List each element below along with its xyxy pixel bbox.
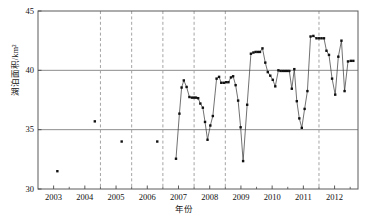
data-point-marker xyxy=(323,37,325,39)
data-point-marker xyxy=(312,35,314,37)
data-point-marker xyxy=(306,90,308,92)
x-tick-label: 2009 xyxy=(225,193,257,202)
data-point-marker xyxy=(197,97,199,99)
data-point-marker xyxy=(218,76,220,78)
data-point-marker xyxy=(288,70,290,72)
data-point-marker xyxy=(237,99,239,101)
x-axis-title: 年份 xyxy=(0,205,368,214)
data-point-marker xyxy=(272,79,274,81)
x-tick-label: 2010 xyxy=(256,193,288,202)
data-point-marker xyxy=(320,37,322,39)
x-tick-label: 2008 xyxy=(194,193,226,202)
data-point-marker xyxy=(225,81,227,83)
data-point-marker xyxy=(284,70,286,72)
data-point-marker xyxy=(185,86,187,88)
y-tick-label: 45 xyxy=(5,7,34,16)
data-point-marker xyxy=(204,121,206,123)
data-point-marker xyxy=(352,60,354,62)
data-point-marker xyxy=(178,112,180,114)
x-tick-label: 2004 xyxy=(69,193,101,202)
data-point-marker xyxy=(175,158,177,160)
data-point-marker xyxy=(246,104,248,106)
data-point-marker xyxy=(282,70,284,72)
series-line xyxy=(176,36,353,161)
data-point-marker xyxy=(331,77,333,79)
data-point-marker xyxy=(220,82,222,84)
data-point-marker xyxy=(199,102,201,104)
data-point-marker xyxy=(325,50,327,52)
data-point-marker xyxy=(212,115,214,117)
data-point-marker xyxy=(286,70,288,72)
data-point-marker xyxy=(315,37,317,39)
y-tick-label: 30 xyxy=(5,185,34,194)
data-point-marker xyxy=(191,96,193,98)
data-point-marker xyxy=(277,69,279,71)
data-point-marker xyxy=(298,117,300,119)
data-point-marker xyxy=(259,51,261,53)
chart-plot-area xyxy=(0,0,368,224)
data-point-marker xyxy=(202,107,204,109)
x-tick-label: 2011 xyxy=(287,193,319,202)
y-axis-title: 湖泊面积/km² xyxy=(11,20,20,120)
data-point-marker xyxy=(56,170,58,172)
data-point-marker xyxy=(257,51,259,53)
data-point-marker xyxy=(296,100,298,102)
data-point-marker xyxy=(223,82,225,84)
data-point-marker xyxy=(264,61,266,63)
data-point-marker xyxy=(301,127,303,129)
data-point-marker xyxy=(291,88,293,90)
data-point-marker xyxy=(340,39,342,41)
x-tick-label: 2012 xyxy=(319,193,351,202)
data-point-marker xyxy=(293,68,295,70)
data-point-marker xyxy=(156,140,158,142)
data-point-marker xyxy=(183,79,185,81)
data-point-marker xyxy=(279,70,281,72)
data-point-marker xyxy=(267,71,269,73)
data-point-marker xyxy=(195,96,197,98)
data-point-marker xyxy=(318,37,320,39)
data-point-marker xyxy=(328,54,330,56)
data-point-marker xyxy=(274,85,276,87)
x-tick-label: 2003 xyxy=(38,193,70,202)
data-point-marker xyxy=(232,75,234,77)
data-point-marker xyxy=(227,81,229,83)
data-point-marker xyxy=(230,76,232,78)
data-point-marker xyxy=(350,60,352,62)
data-point-marker xyxy=(239,126,241,128)
data-point-marker xyxy=(234,84,236,86)
data-point-marker xyxy=(252,51,254,53)
data-point-marker xyxy=(269,74,271,76)
data-point-marker xyxy=(120,140,122,142)
lake-area-chart: 30354045 2003200420052006200720082009201… xyxy=(0,0,368,224)
data-point-marker xyxy=(309,35,311,37)
data-point-marker xyxy=(347,60,349,62)
y-tick-label: 35 xyxy=(5,125,34,134)
data-point-marker xyxy=(250,53,252,55)
data-point-marker xyxy=(343,90,345,92)
data-point-marker xyxy=(337,55,339,57)
data-point-marker xyxy=(254,51,256,53)
data-point-marker xyxy=(94,120,96,122)
data-point-marker xyxy=(188,96,190,98)
data-point-marker xyxy=(215,77,217,79)
x-tick-label: 2005 xyxy=(100,193,132,202)
data-point-marker xyxy=(206,139,208,141)
x-tick-label: 2007 xyxy=(162,193,194,202)
data-point-marker xyxy=(303,108,305,110)
data-point-marker xyxy=(334,93,336,95)
data-point-marker xyxy=(261,47,263,49)
data-point-marker xyxy=(242,160,244,162)
x-tick-label: 2006 xyxy=(131,193,163,202)
data-point-marker xyxy=(180,86,182,88)
data-point-marker xyxy=(209,124,211,126)
